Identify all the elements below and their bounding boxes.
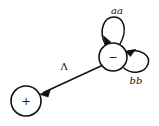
automaton-canvas: aa bb Λ − + (0, 0, 159, 126)
state-plus-label: + (21, 95, 30, 108)
state-minus[interactable]: − (99, 43, 127, 71)
self-loop-bb-label: bb (130, 75, 143, 86)
self-loop-aa: aa (102, 5, 124, 46)
edge-lambda-label: Λ (59, 61, 68, 72)
edge-lambda-arrowhead (40, 90, 51, 97)
edge-lambda: Λ (40, 61, 102, 98)
state-plus[interactable]: + (11, 86, 41, 116)
edge-lambda-path (44, 66, 102, 93)
self-loop-aa-label: aa (111, 5, 123, 16)
automaton-diagram: aa bb Λ − + (0, 0, 159, 126)
state-minus-label: − (108, 51, 117, 64)
self-loop-bb: bb (124, 49, 149, 85)
